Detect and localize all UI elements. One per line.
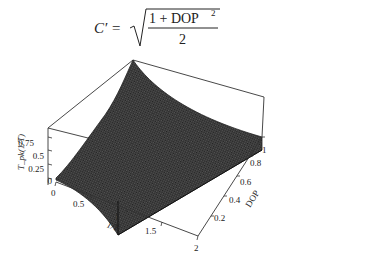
x-tick-15: 1.5	[145, 226, 157, 236]
z-tick-0: 0	[48, 176, 53, 186]
z-axis-ticks	[48, 137, 52, 179]
y-axis-label: DOP	[243, 188, 261, 209]
y-tick-1: 1	[262, 145, 267, 155]
x-tick-05: 0.5	[73, 199, 85, 209]
x-tick-0: 0	[51, 188, 56, 198]
z-axis-label: T_pk(1/T̄)	[16, 134, 26, 170]
surface	[56, 60, 262, 235]
z-tick-025: 0.25	[28, 164, 44, 174]
y-tick-08: 0.8	[250, 158, 262, 168]
z-tick-05: 0.5	[33, 151, 45, 161]
surface-plot: 0.75 0.5 0.25 0 T_pk(1/T̄) 0 0.5 1 1.5 2…	[0, 0, 383, 264]
y-tick-02: 0.2	[214, 213, 225, 223]
y-tick-06: 0.6	[240, 177, 252, 187]
y-tick-04: 0.4	[229, 195, 241, 205]
x-tick-1: 1	[115, 212, 120, 222]
x-tick-2: 2	[194, 243, 199, 253]
